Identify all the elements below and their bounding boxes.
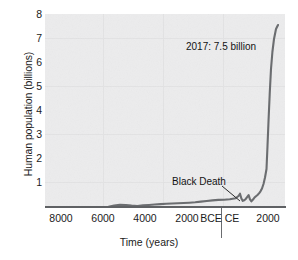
y-axis-tick-labels: 8 7 6 5 4 3 2 1: [26, 0, 42, 260]
y-tick-4: 4: [28, 105, 42, 116]
y-tick-2: 2: [28, 153, 42, 164]
y-tick-6: 6: [28, 57, 42, 68]
x-axis-title: Time (years): [0, 236, 298, 248]
x-axis-line: [45, 206, 286, 208]
x-tick-ce: CE: [225, 212, 240, 224]
x-tick-4000-bce: 4000: [133, 212, 156, 224]
x-tick-2000-ce: 2000: [256, 212, 279, 224]
annotation-black-death: Black Death: [172, 176, 226, 187]
x-tick-2000-bce: 2000: [175, 212, 198, 224]
y-tick-8: 8: [28, 9, 42, 20]
y-tick-3: 3: [28, 129, 42, 140]
x-tick-bce: BCE: [200, 212, 222, 224]
y-tick-5: 5: [28, 81, 42, 92]
y-tick-7: 7: [28, 33, 42, 44]
x-tick-8000-bce: 8000: [49, 212, 72, 224]
x-tick-6000-bce: 6000: [91, 212, 114, 224]
population-growth-chart: Human population (billions) 8 7 6 5 4 3 …: [0, 0, 298, 260]
annotation-2017-population: 2017: 7.5 billion: [186, 41, 256, 52]
y-tick-1: 1: [28, 177, 42, 188]
